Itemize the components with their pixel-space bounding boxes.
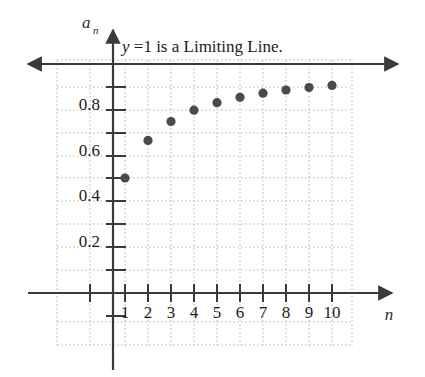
x-tick-label-8: 8 (282, 303, 291, 322)
x-tick-label-4: 4 (190, 303, 199, 322)
data-point-5 (212, 98, 221, 107)
x-tick-label-2: 2 (144, 303, 153, 322)
limiting-line-annotation: y =1 is a Limiting Line. (120, 37, 283, 56)
x-tick-label-7: 7 (259, 303, 268, 322)
x-tick-label-1: 1 (121, 303, 130, 322)
annotation-italic-y: y (120, 37, 130, 56)
data-point-8 (281, 85, 290, 94)
annotation-rest: =1 is a Limiting Line. (130, 37, 283, 56)
x-tick-label-10: 10 (324, 303, 341, 322)
data-point-4 (189, 106, 198, 115)
x-tick-label-9: 9 (305, 303, 314, 322)
y-tick-label-0-4: 0.4 (79, 186, 101, 205)
y-tick-label-0-6: 0.6 (79, 141, 100, 160)
y-tick-label-0-8: 0.8 (79, 95, 100, 114)
y-axis-label: a (82, 13, 91, 32)
x-tick-label-6: 6 (236, 303, 245, 322)
chart-figure: 0.8 0.6 0.4 0.2 1 2 3 4 5 6 7 8 9 10 y (0, 0, 425, 377)
data-point-10 (327, 81, 336, 90)
data-point-3 (166, 117, 175, 126)
data-point-2 (143, 136, 152, 145)
data-point-7 (258, 89, 267, 98)
data-point-1 (120, 173, 129, 182)
x-tick-label-3: 3 (167, 303, 176, 322)
data-point-9 (304, 83, 313, 92)
y-axis-label-subscript: n (93, 24, 99, 36)
sequence-scatter-plot: 0.8 0.6 0.4 0.2 1 2 3 4 5 6 7 8 9 10 y (0, 0, 425, 377)
data-point-6 (235, 93, 244, 102)
x-tick-label-5: 5 (213, 303, 222, 322)
x-axis-label: n (385, 305, 394, 324)
y-tick-label-0-2: 0.2 (79, 232, 100, 251)
